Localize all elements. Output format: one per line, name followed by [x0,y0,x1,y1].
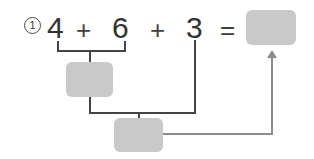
bracket-lower-span [89,112,196,114]
operator-1-plus: + [76,17,91,43]
worksheet-problem-diagram: 1 4 + 6 + 3 = [0,0,314,159]
answer-box-sum-4-plus-6[interactable] [66,62,113,97]
answer-box-sum-intermediate-plus-3[interactable] [114,118,163,152]
arrow-horizontal-segment [163,133,273,135]
bracket-upper-right-leg [124,41,126,52]
arrow-up-icon [267,50,277,58]
problem-number-label: 1 [29,20,35,31]
arrow-vertical-segment [271,58,273,134]
operator-2-plus: + [150,17,165,43]
operand-2: 6 [112,13,129,43]
operand-1: 4 [47,13,64,43]
bracket-lower-right-leg-from-operand-3 [194,40,196,113]
bracket-upper-span [57,50,126,52]
bracket-upper-stem [89,50,91,62]
answer-box-final-total[interactable] [246,10,296,45]
equals-sign: = [220,17,235,43]
operand-3: 3 [186,13,203,43]
problem-number-badge: 1 [24,17,41,34]
